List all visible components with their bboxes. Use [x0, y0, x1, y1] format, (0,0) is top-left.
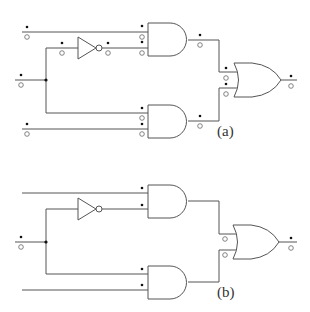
circuit-b: (b) [15, 185, 297, 301]
not-gate-icon [78, 198, 102, 220]
diagram-label-a: (a) [217, 123, 234, 140]
and-gate-icon [148, 185, 187, 218]
not-gate-icon [78, 37, 102, 59]
circuit-a: (a) [15, 23, 297, 140]
or-gate-icon [234, 63, 281, 97]
and-gate-icon [148, 23, 187, 56]
diagram-label-b: (b) [217, 284, 235, 301]
or-gate-icon [233, 225, 279, 259]
and-gate-icon [148, 105, 187, 138]
junction-dot [44, 78, 47, 81]
and-gate-icon [148, 266, 187, 299]
logic-circuits-figure: (a) [0, 0, 310, 312]
junction-dot [44, 240, 47, 243]
